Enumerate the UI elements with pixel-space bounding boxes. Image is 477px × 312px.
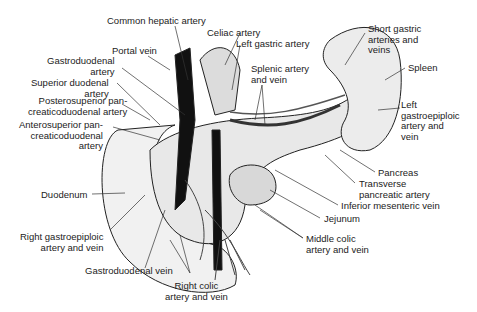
label-splenic-artery-vein: Splenic artery and vein	[251, 64, 309, 85]
label-right-gastroepiploic: Right gastroepiploic artery and vein	[20, 232, 103, 253]
label-portal-vein: Portal vein	[112, 46, 157, 57]
label-spleen: Spleen	[408, 63, 438, 74]
label-common-hepatic-artery: Common hepatic artery	[107, 16, 206, 27]
label-posterosuperior-pd-artery: Posterosuperior pan- creaticoduodenal ar…	[28, 96, 127, 117]
label-gastroduodenal-artery: Gastroduodenal artery	[47, 56, 115, 77]
label-anterosuperior-pd-artery: Anterosuperior pan- creaticoduodenal art…	[19, 120, 103, 152]
label-inferior-mesenteric-vein: Inferior mesenteric vein	[341, 201, 440, 212]
label-left-gastroepiploic: Left gastroepiploic artery and vein	[401, 100, 460, 142]
label-gastroduodenal-vein: Gastroduodenal vein	[85, 266, 173, 277]
label-right-colic: Right colic artery and vein	[165, 281, 228, 302]
label-jejunum: Jejunum	[324, 214, 360, 225]
jejunum-shape	[229, 165, 276, 205]
label-left-gastric-artery: Left gastric artery	[236, 39, 309, 50]
label-duodenum: Duodenum	[41, 190, 87, 201]
label-pancreas: Pancreas	[378, 168, 418, 179]
label-middle-colic: Middle colic artery and vein	[306, 234, 369, 255]
label-short-gastric: Short gastric arteries and veins	[368, 24, 421, 56]
label-celiac-artery: Celiac artery	[207, 28, 260, 39]
label-transverse-pancreatic-artery: Transverse pancreatic artery	[359, 179, 430, 200]
